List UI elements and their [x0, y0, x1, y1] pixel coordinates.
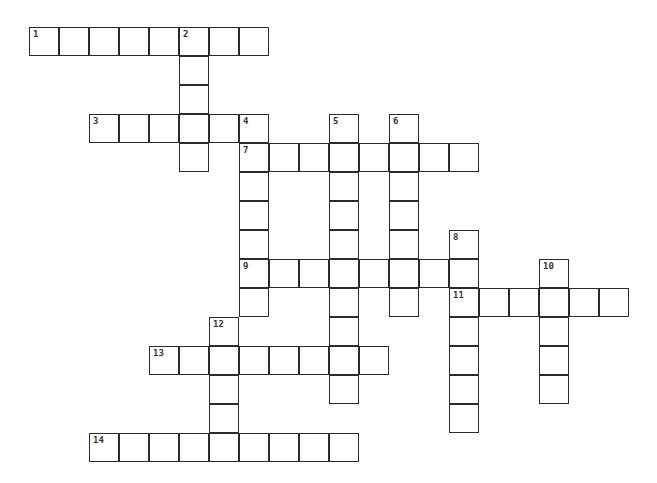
- crossword-cell[interactable]: [269, 259, 299, 288]
- crossword-cell[interactable]: 13: [149, 346, 179, 375]
- crossword-cell[interactable]: [449, 404, 479, 433]
- crossword-cell[interactable]: [449, 317, 479, 346]
- crossword-cell[interactable]: [539, 375, 569, 404]
- crossword-cell[interactable]: [569, 288, 599, 317]
- clue-number: 6: [393, 117, 398, 126]
- clue-number: 3: [93, 117, 98, 126]
- crossword-cell[interactable]: [119, 27, 149, 56]
- crossword-cell[interactable]: [239, 27, 269, 56]
- crossword-grid: 1234795681110121314: [0, 0, 657, 483]
- crossword-cell[interactable]: 14: [89, 433, 119, 462]
- crossword-cell[interactable]: [299, 346, 329, 375]
- clue-number: 1: [33, 30, 38, 39]
- crossword-cell[interactable]: [389, 230, 419, 259]
- crossword-cell[interactable]: [389, 259, 419, 288]
- crossword-cell[interactable]: [359, 143, 389, 172]
- clue-number: 7: [243, 146, 248, 155]
- crossword-cell[interactable]: [179, 114, 209, 143]
- crossword-cell[interactable]: [149, 27, 179, 56]
- crossword-cell[interactable]: [479, 288, 509, 317]
- crossword-cell[interactable]: 3: [89, 114, 119, 143]
- crossword-cell[interactable]: [149, 433, 179, 462]
- clue-number: 9: [243, 262, 248, 271]
- crossword-cell[interactable]: [209, 346, 239, 375]
- crossword-cell[interactable]: [119, 114, 149, 143]
- crossword-cell[interactable]: 1: [29, 27, 59, 56]
- crossword-cell[interactable]: [329, 317, 359, 346]
- clue-number: 5: [333, 117, 338, 126]
- crossword-cell[interactable]: 7: [239, 143, 269, 172]
- crossword-cell[interactable]: [539, 317, 569, 346]
- crossword-cell[interactable]: [359, 346, 389, 375]
- crossword-cell[interactable]: [599, 288, 629, 317]
- crossword-cell[interactable]: [389, 201, 419, 230]
- crossword-cell[interactable]: [329, 375, 359, 404]
- crossword-cell[interactable]: [269, 433, 299, 462]
- crossword-cell[interactable]: [449, 375, 479, 404]
- crossword-cell[interactable]: [179, 346, 209, 375]
- clue-number: 14: [93, 436, 104, 445]
- crossword-cell[interactable]: [149, 114, 179, 143]
- crossword-cell[interactable]: [539, 346, 569, 375]
- crossword-cell[interactable]: [269, 346, 299, 375]
- crossword-cell[interactable]: [89, 27, 119, 56]
- crossword-cell[interactable]: [239, 230, 269, 259]
- crossword-cell[interactable]: 4: [239, 114, 269, 143]
- crossword-cell[interactable]: [209, 27, 239, 56]
- crossword-cell[interactable]: [329, 172, 359, 201]
- crossword-cell[interactable]: [329, 288, 359, 317]
- crossword-cell[interactable]: [389, 288, 419, 317]
- crossword-cell[interactable]: [329, 230, 359, 259]
- crossword-cell[interactable]: [449, 143, 479, 172]
- crossword-cell[interactable]: [269, 143, 299, 172]
- crossword-cell[interactable]: [509, 288, 539, 317]
- crossword-cell[interactable]: [449, 259, 479, 288]
- crossword-cell[interactable]: [179, 433, 209, 462]
- crossword-cell[interactable]: [239, 172, 269, 201]
- crossword-cell[interactable]: [329, 259, 359, 288]
- crossword-cell[interactable]: [419, 143, 449, 172]
- crossword-cell[interactable]: [329, 433, 359, 462]
- crossword-cell[interactable]: 10: [539, 259, 569, 288]
- crossword-cell[interactable]: 9: [239, 259, 269, 288]
- crossword-cell[interactable]: [389, 172, 419, 201]
- crossword-cell[interactable]: [239, 433, 269, 462]
- crossword-cell[interactable]: [329, 346, 359, 375]
- crossword-cell[interactable]: 6: [389, 114, 419, 143]
- crossword-cell[interactable]: [239, 201, 269, 230]
- crossword-cell[interactable]: [449, 346, 479, 375]
- crossword-cell[interactable]: [209, 375, 239, 404]
- crossword-cell[interactable]: [359, 259, 389, 288]
- crossword-cell[interactable]: [299, 259, 329, 288]
- crossword-cell[interactable]: [299, 433, 329, 462]
- crossword-cell[interactable]: [209, 404, 239, 433]
- crossword-cell[interactable]: [59, 27, 89, 56]
- crossword-cell[interactable]: [419, 259, 449, 288]
- crossword-cell[interactable]: [209, 114, 239, 143]
- crossword-cell[interactable]: 12: [209, 317, 239, 346]
- crossword-cell[interactable]: [179, 85, 209, 114]
- clue-number: 11: [453, 291, 464, 300]
- clue-number: 4: [243, 117, 248, 126]
- crossword-cell[interactable]: [239, 346, 269, 375]
- crossword-cell[interactable]: [179, 143, 209, 172]
- crossword-cell[interactable]: 11: [449, 288, 479, 317]
- crossword-cell[interactable]: [329, 143, 359, 172]
- clue-number: 2: [183, 30, 188, 39]
- clue-number: 12: [213, 320, 224, 329]
- crossword-cell[interactable]: [119, 433, 149, 462]
- crossword-cell[interactable]: 8: [449, 230, 479, 259]
- clue-number: 10: [543, 262, 554, 271]
- crossword-cell[interactable]: [539, 288, 569, 317]
- crossword-cell[interactable]: 5: [329, 114, 359, 143]
- crossword-cell[interactable]: [179, 56, 209, 85]
- crossword-cell[interactable]: [209, 433, 239, 462]
- clue-number: 8: [453, 233, 458, 242]
- clue-number: 13: [153, 349, 164, 358]
- crossword-cell[interactable]: [239, 288, 269, 317]
- crossword-cell[interactable]: [389, 143, 419, 172]
- crossword-cell[interactable]: 2: [179, 27, 209, 56]
- crossword-cell[interactable]: [329, 201, 359, 230]
- crossword-cell[interactable]: [299, 143, 329, 172]
